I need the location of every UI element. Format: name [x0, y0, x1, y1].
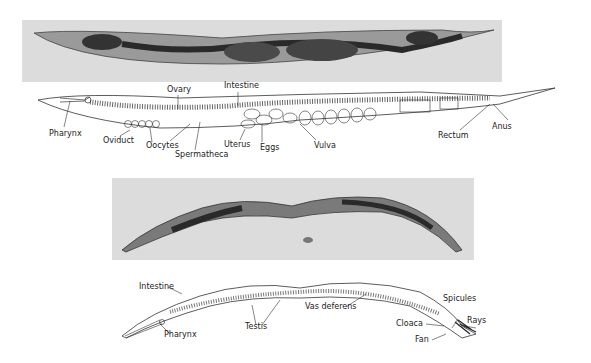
- hermaphrodite-diagram: Ovary Intestine Pharynx Oviduct Oocytes …: [0, 84, 591, 174]
- label-vas-deferens: Vas deferens: [305, 302, 356, 311]
- male-outline-drawing: [0, 262, 591, 363]
- hermaphrodite-worm-photo: [22, 20, 502, 82]
- label-intestine: Intestine: [139, 282, 174, 291]
- label-rays: Rays: [467, 316, 486, 325]
- label-uterus: Uterus: [224, 140, 250, 149]
- label-ovary: Ovary: [167, 85, 191, 94]
- label-pharynx: Pharynx: [49, 129, 82, 138]
- hermaphrodite-micrograph: [22, 20, 502, 82]
- label-anus: Anus: [492, 122, 512, 131]
- male-diagram: Intestine Pharynx Testis Vas deferens Sp…: [0, 262, 591, 363]
- label-rectum: Rectum: [438, 131, 469, 140]
- label-spermatheca: Spermatheca: [175, 150, 228, 159]
- male-worm-photo: [112, 178, 474, 260]
- label-intestine: Intestine: [224, 81, 259, 90]
- label-testis: Testis: [245, 322, 267, 331]
- label-eggs: Eggs: [260, 143, 279, 152]
- label-vulva: Vulva: [314, 141, 336, 150]
- label-cloaca: Cloaca: [396, 319, 423, 328]
- label-pharynx: Pharynx: [164, 330, 197, 339]
- male-micrograph: [112, 178, 474, 260]
- label-spicules: Spicules: [443, 294, 476, 303]
- label-oviduct: Oviduct: [103, 136, 134, 145]
- label-oocytes: Oocytes: [146, 141, 179, 150]
- label-fan: Fan: [415, 335, 429, 344]
